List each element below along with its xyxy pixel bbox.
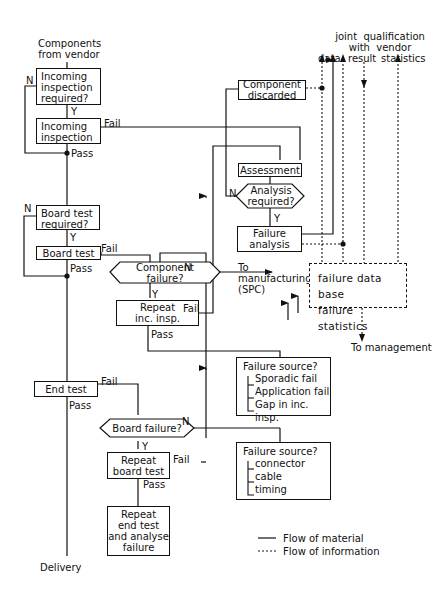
edge-label-pass: Pass	[151, 329, 173, 340]
failure-source-item: cable	[243, 470, 330, 483]
source-label: Components from vendor	[38, 38, 100, 60]
failure-database-box: failure data base failure statistics	[309, 263, 407, 308]
edge-label-n: N	[26, 75, 33, 86]
edge-label-y: Y	[152, 289, 158, 300]
component-failure-decision: Component failure?	[112, 262, 218, 283]
failure-source-item: Sporadic fail	[243, 372, 330, 385]
edge-label-fail: Fail	[183, 303, 200, 314]
incoming-inspection-box: Incoming inspection	[36, 118, 101, 144]
failure-source-item: connector	[243, 457, 330, 470]
board-test-box: Board test	[36, 246, 101, 260]
edge-label-y: Y	[142, 441, 148, 452]
board-failure-decision: Board failure?	[102, 419, 192, 437]
failure-source-item: Gap in inc. insp.	[243, 398, 330, 411]
database-line-2: failure statistics	[318, 302, 406, 334]
statistics-label: statistics	[381, 53, 426, 64]
edge-label-n: N	[182, 416, 189, 427]
result-label: result	[348, 53, 376, 64]
edge-label-fail: Fail	[101, 243, 118, 254]
repeat-end-test-box: Repeat end test and analyse failure	[107, 506, 170, 556]
data-label: data	[318, 53, 341, 64]
edge-label-n: N	[184, 262, 191, 273]
edge-label-fail: Fail	[173, 454, 190, 465]
failure-source-item: Application fail	[243, 385, 330, 398]
edge-label-y: Y	[274, 213, 280, 224]
edge-label-y: Y	[70, 232, 76, 243]
analysis-required-decision: Analysis required?	[240, 184, 302, 208]
failure-source-title: Failure source?	[237, 443, 330, 457]
legend-information: Flow of information	[283, 546, 380, 557]
edge-label-pass: Pass	[69, 400, 91, 411]
failure-analysis-box: Failure analysis	[237, 226, 302, 252]
edge-label-fail: Fail	[101, 376, 118, 387]
edge-label-pass: Pass	[143, 479, 165, 490]
legend-material: Flow of material	[283, 533, 364, 544]
edge-label-pass: Pass	[71, 148, 93, 159]
failure-source-box-board: Failure source? connector cable timing	[236, 442, 331, 500]
board-test-required-box: Board test required?	[36, 205, 100, 230]
to-management-label: To management	[351, 342, 432, 353]
edge-label-fail: Fail	[104, 118, 121, 129]
to-manufacturing-label: To manufacturing (SPC)	[238, 262, 312, 295]
delivery-label: Delivery	[40, 562, 82, 573]
repeat-board-test-box: Repeat board test	[107, 452, 170, 479]
edge-label-n: N	[229, 188, 236, 199]
edge-label-y: Y	[71, 106, 77, 117]
assessment-box: Assessment	[238, 163, 302, 177]
edge-label-n: N	[24, 203, 31, 214]
component-discarded-box: Component discarded	[238, 80, 306, 100]
failure-source-title: Failure source?	[237, 358, 330, 372]
edge-label-pass: Pass	[70, 263, 92, 274]
failure-source-item: timing	[243, 483, 330, 496]
database-line-1: failure data base	[318, 270, 406, 302]
incoming-inspection-required-box: Incoming inspection required?	[36, 68, 101, 105]
end-test-box: End test	[34, 381, 98, 397]
joint-qualification-label: joint qualification with vendor	[325, 31, 435, 53]
failure-source-box-component: Failure source? Sporadic fail Applicatio…	[236, 357, 331, 416]
